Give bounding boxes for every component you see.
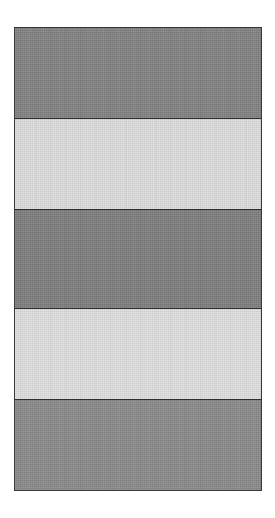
- band-4-light: [15, 308, 261, 399]
- band-1-dark: [15, 28, 261, 118]
- band-stack: [14, 27, 262, 491]
- band-3-dark: [15, 209, 261, 308]
- figure-canvas: [0, 0, 275, 518]
- band-5-dark: [15, 399, 261, 491]
- band-2-light: [15, 118, 261, 209]
